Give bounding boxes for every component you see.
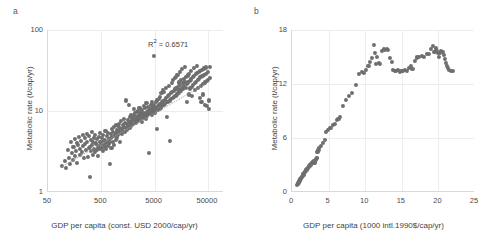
scatter-point bbox=[208, 76, 212, 80]
gridline-horizontal bbox=[292, 138, 474, 139]
x-tick-label: 50 bbox=[43, 197, 51, 205]
gridline-horizontal bbox=[292, 30, 474, 31]
x-tick-label: 50000 bbox=[197, 197, 218, 205]
scatter-point bbox=[96, 154, 100, 158]
scatter-point bbox=[86, 155, 90, 159]
panel-a-x-axis-title: GDP per capita (const. USD 2000/cap/yr) bbox=[0, 222, 249, 231]
regression-trendline bbox=[62, 84, 205, 167]
scatter-point bbox=[88, 175, 92, 179]
scatter-point bbox=[451, 68, 455, 72]
scatter-point bbox=[319, 144, 323, 148]
figure-two-panel-scatter: a 50500500050000 110100 R2 = 0.6571 GDP … bbox=[0, 0, 498, 247]
scatter-point bbox=[185, 100, 189, 104]
scatter-point bbox=[372, 43, 376, 47]
scatter-point bbox=[112, 143, 116, 147]
x-tick-label: 10 bbox=[360, 197, 368, 205]
scatter-point bbox=[208, 65, 212, 69]
scatter-point bbox=[108, 162, 112, 166]
scatter-point bbox=[147, 151, 151, 155]
gridline-vertical bbox=[365, 30, 366, 191]
scatter-point bbox=[390, 60, 394, 64]
scatter-point bbox=[333, 122, 337, 126]
panel-a-r-squared-annotation: R2 = 0.6571 bbox=[148, 38, 188, 48]
panel-b-x-axis-title: GDP per capita (1000 intl.1990$/cap/yr) bbox=[249, 222, 498, 231]
scatter-point bbox=[155, 127, 159, 131]
scatter-point bbox=[315, 156, 319, 160]
scatter-point bbox=[323, 138, 327, 142]
panel-b-plot-area bbox=[291, 30, 474, 192]
scatter-point bbox=[350, 91, 354, 95]
panel-b-y-axis-title: Metabolic rate (t/cap/yr) bbox=[271, 38, 280, 178]
panel-a-plot-area bbox=[47, 30, 223, 192]
x-tick-label: 25 bbox=[470, 197, 478, 205]
gridline-vertical bbox=[329, 30, 330, 191]
r-value: = 0.6571 bbox=[157, 40, 189, 49]
x-tick-label: 5 bbox=[326, 197, 330, 205]
scatter-point bbox=[375, 55, 379, 59]
scatter-point bbox=[165, 115, 169, 119]
scatter-point bbox=[338, 115, 342, 119]
x-tick-label: 20 bbox=[433, 197, 441, 205]
scatter-point bbox=[386, 48, 390, 52]
scatter-point bbox=[201, 92, 205, 96]
panel-b: b 0510152025 061218 GDP per capita (1000… bbox=[249, 0, 498, 247]
scatter-point bbox=[427, 52, 431, 56]
y-tick-label: 100 bbox=[21, 26, 43, 34]
x-tick-label: 500 bbox=[94, 197, 107, 205]
y-tick-label: 1 bbox=[21, 188, 43, 196]
scatter-point bbox=[168, 139, 172, 143]
scatter-point bbox=[75, 161, 79, 165]
scatter-point bbox=[370, 56, 374, 60]
scatter-point bbox=[368, 60, 372, 64]
scatter-point bbox=[344, 98, 348, 102]
scatter-point bbox=[190, 94, 194, 98]
gridline-horizontal bbox=[292, 84, 474, 85]
scatter-point bbox=[195, 64, 199, 68]
scatter-point bbox=[183, 65, 187, 69]
x-tick-label: 15 bbox=[397, 197, 405, 205]
scatter-point bbox=[366, 64, 370, 68]
x-tick-label: 5000 bbox=[145, 197, 162, 205]
scatter-point bbox=[118, 139, 122, 143]
panel-a-letter: a bbox=[13, 7, 18, 16]
scatter-point bbox=[206, 70, 210, 74]
scatter-point bbox=[207, 98, 211, 102]
scatter-point bbox=[64, 166, 68, 170]
scatter-point bbox=[364, 68, 368, 72]
x-tick-label: 0 bbox=[289, 197, 293, 205]
gridline-vertical bbox=[402, 30, 403, 191]
y-tick-label: 0 bbox=[265, 188, 287, 196]
scatter-point bbox=[378, 62, 382, 66]
panel-a-y-axis-title: Metabolic rate (t/cap/yr) bbox=[26, 38, 35, 178]
gridline-horizontal bbox=[48, 30, 223, 31]
panel-a: a 50500500050000 110100 R2 = 0.6571 GDP … bbox=[0, 0, 249, 247]
scatter-point bbox=[410, 67, 414, 71]
scatter-point bbox=[126, 103, 130, 107]
scatter-point bbox=[354, 83, 358, 87]
y-tick-label: 18 bbox=[265, 26, 287, 34]
panel-b-letter: b bbox=[254, 7, 259, 16]
scatter-point bbox=[152, 54, 156, 58]
scatter-point bbox=[341, 104, 345, 108]
